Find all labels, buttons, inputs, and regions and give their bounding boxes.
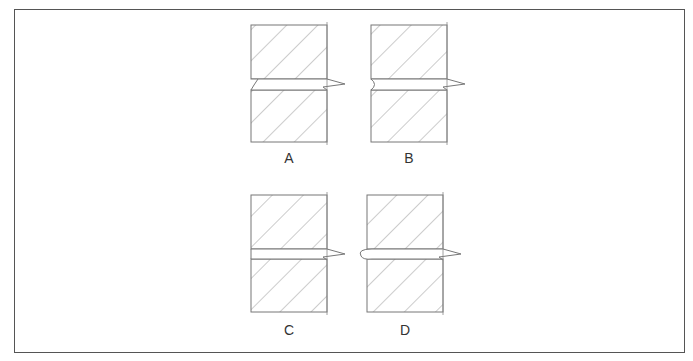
lower-block-a [251, 90, 327, 142]
upper-block-b [371, 25, 447, 79]
panel-a [251, 22, 345, 145]
lower-block-c [251, 259, 327, 312]
joint-diagram [0, 0, 693, 361]
lower-block-d [367, 259, 443, 312]
panel-b [371, 22, 465, 145]
upper-block-a [251, 25, 327, 79]
panel-d [360, 192, 461, 315]
panel-label-d: D [395, 322, 415, 338]
panel-label-b: B [399, 150, 419, 166]
lower-block-b [371, 90, 447, 142]
upper-block-d [367, 195, 443, 249]
upper-block-c [251, 195, 327, 249]
panel-c [251, 192, 345, 315]
panel-label-a: A [279, 150, 299, 166]
panel-label-c: C [279, 322, 299, 338]
